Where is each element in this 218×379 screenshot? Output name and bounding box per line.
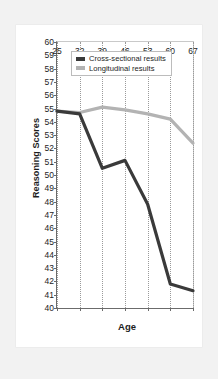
legend-swatch-icon bbox=[76, 66, 85, 70]
series-lines bbox=[57, 42, 193, 308]
legend-swatch-icon bbox=[76, 57, 85, 61]
x-tick-mark bbox=[148, 308, 149, 311]
y-tick-label: 47 bbox=[38, 210, 54, 220]
y-tick-label: 53 bbox=[38, 130, 54, 140]
legend: Cross-sectional results Longitudinal res… bbox=[71, 51, 172, 76]
y-tick-label: 48 bbox=[38, 197, 54, 207]
y-tick-label: 50 bbox=[38, 170, 54, 180]
x-tick-mark bbox=[102, 308, 103, 311]
legend-item-cross-sectional: Cross-sectional results bbox=[76, 55, 166, 63]
x-tick-mark bbox=[57, 308, 58, 311]
y-tick-label: 43 bbox=[38, 263, 54, 273]
legend-item-longitudinal: Longitudinal results bbox=[76, 65, 166, 73]
y-tick-label: 41 bbox=[38, 290, 54, 300]
y-tick-label: 40 bbox=[38, 303, 54, 313]
y-tick-label: 58 bbox=[38, 64, 54, 74]
y-tick-label: 46 bbox=[38, 223, 54, 233]
legend-item-label: Cross-sectional results bbox=[89, 55, 166, 63]
x-tick-mark bbox=[80, 308, 81, 311]
y-tick-label: 44 bbox=[38, 250, 54, 260]
y-tick-label: 42 bbox=[38, 276, 54, 286]
x-tick-mark bbox=[193, 308, 194, 311]
gridline-vertical bbox=[193, 42, 194, 308]
x-axis-title: Age bbox=[52, 321, 202, 332]
x-tick-mark bbox=[125, 308, 126, 311]
y-tick-label: 51 bbox=[38, 157, 54, 167]
figure-card: Reasoning Scores 60595857565554535251504… bbox=[16, 25, 202, 347]
y-tick-label: 49 bbox=[38, 183, 54, 193]
y-tick-label: 52 bbox=[38, 143, 54, 153]
y-tick-label: 57 bbox=[38, 77, 54, 87]
y-tick-label: 45 bbox=[38, 237, 54, 247]
y-tick-label: 56 bbox=[38, 90, 54, 100]
legend-item-label: Longitudinal results bbox=[89, 65, 154, 73]
y-tick-label: 54 bbox=[38, 117, 54, 127]
y-tick-label: 55 bbox=[38, 104, 54, 114]
figure-caption bbox=[18, 352, 200, 372]
line-chart: Reasoning Scores 60595857565554535251504… bbox=[16, 25, 202, 347]
line-cross-sectional-results bbox=[57, 111, 193, 291]
plot-area: 6059585756555453525150494847464544434241… bbox=[56, 41, 194, 309]
x-tick-mark bbox=[170, 308, 171, 311]
